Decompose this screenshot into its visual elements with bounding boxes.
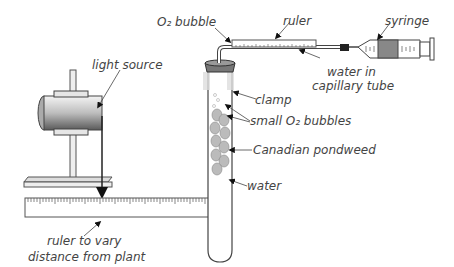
pondweed — [210, 109, 230, 175]
label-canadian-pondweed: Canadian pondweed — [253, 144, 376, 157]
label-ruler: ruler — [283, 15, 311, 28]
capillary-tube — [219, 40, 358, 63]
label-water-in-line1: water in — [327, 66, 376, 79]
test-tube — [203, 60, 235, 262]
label-o2-bubble: O₂ bubble — [157, 16, 216, 29]
label-ruler-to-vary-line1: ruler to vary — [47, 235, 121, 248]
label-ruler-to-vary-line2: distance from plant — [28, 251, 145, 264]
photosynthesis-apparatus-diagram — [0, 0, 454, 267]
label-water: water — [247, 180, 281, 193]
label-syringe: syringe — [385, 15, 429, 28]
label-water-in-line2: capillary tube — [312, 80, 394, 93]
label-light-source: light source — [92, 59, 163, 72]
label-small-o2-bubbles: small O₂ bubbles — [250, 115, 351, 128]
distance-ruler — [25, 198, 209, 217]
label-clamp: clamp — [255, 94, 292, 107]
syringe — [358, 38, 434, 60]
